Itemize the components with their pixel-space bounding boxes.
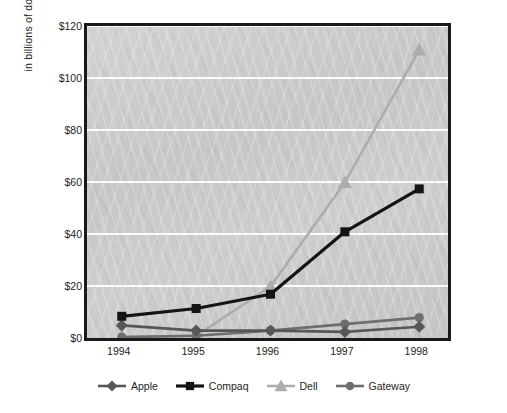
y-axis-tick-label: $0 bbox=[36, 332, 82, 344]
legend-item-apple[interactable]: Apple bbox=[97, 379, 158, 393]
x-axis-tick-label: 1995 bbox=[181, 345, 204, 357]
data-point-marker bbox=[192, 304, 201, 313]
y-axis-title: in billions of dollars bbox=[22, 0, 34, 105]
x-axis-tick-label: 1996 bbox=[256, 345, 279, 357]
plot-area bbox=[84, 23, 451, 341]
x-axis-tick-label: 1994 bbox=[107, 345, 130, 357]
y-axis-tick-label: $40 bbox=[36, 228, 82, 240]
x-axis-tick-label: 1997 bbox=[330, 345, 353, 357]
x-axis-tick-labels: 19941995199619971998 bbox=[84, 345, 451, 365]
data-series-layer bbox=[87, 26, 451, 341]
chart-legend: AppleCompaqDellGateway bbox=[0, 379, 507, 393]
legend-item-gateway[interactable]: Gateway bbox=[335, 379, 410, 393]
data-point-marker bbox=[116, 319, 128, 331]
circle-marker-icon bbox=[335, 379, 365, 393]
legend-item-compaq[interactable]: Compaq bbox=[175, 379, 249, 393]
data-point-marker bbox=[266, 290, 275, 299]
y-axis-tick-label: $60 bbox=[36, 176, 82, 188]
y-axis-tick-label: $80 bbox=[36, 124, 82, 136]
data-point-marker bbox=[339, 326, 351, 338]
triangle-marker-icon bbox=[266, 379, 296, 393]
legend-label: Dell bbox=[300, 380, 318, 392]
x-axis-tick-label: 1998 bbox=[405, 345, 428, 357]
y-axis-tick-label: $100 bbox=[36, 72, 82, 84]
legend-label: Compaq bbox=[209, 380, 249, 392]
data-point-marker bbox=[340, 227, 349, 236]
data-point-marker bbox=[415, 184, 424, 193]
legend-label: Apple bbox=[131, 380, 158, 392]
line-chart: in billions of dollars $0$20$40$60$80$10… bbox=[0, 0, 507, 413]
y-axis-tick-label: $120 bbox=[36, 20, 82, 32]
data-point-marker bbox=[412, 43, 426, 56]
series-compaq bbox=[117, 184, 423, 320]
y-axis-tick-label: $20 bbox=[36, 280, 82, 292]
y-axis-title-label: in billions of dollars bbox=[22, 0, 34, 105]
diamond-marker-icon bbox=[97, 379, 127, 393]
legend-item-dell[interactable]: Dell bbox=[266, 379, 318, 393]
legend-label: Gateway bbox=[369, 380, 410, 392]
y-axis-tick-labels: $0$20$40$60$80$100$120 bbox=[36, 0, 82, 413]
data-point-marker bbox=[265, 325, 277, 337]
data-point-marker bbox=[117, 312, 126, 321]
data-point-marker bbox=[117, 333, 126, 342]
data-point-marker bbox=[413, 321, 425, 333]
data-point-marker bbox=[338, 175, 352, 188]
square-marker-icon bbox=[175, 379, 205, 393]
